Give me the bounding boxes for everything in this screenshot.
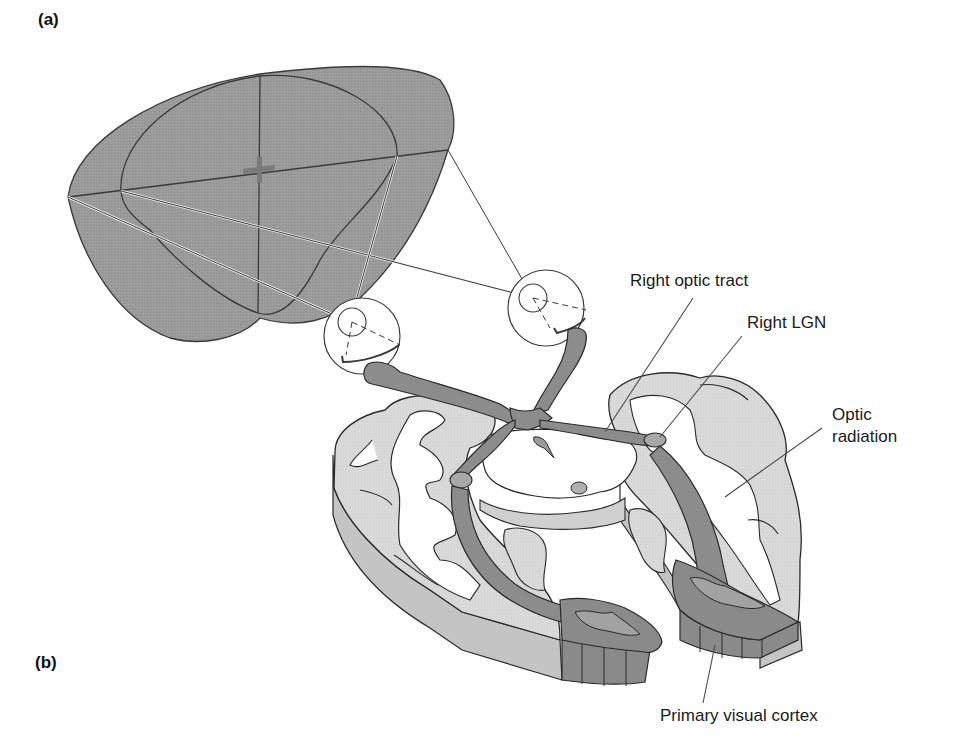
label-optic-radiation-line1: Optic: [832, 404, 872, 425]
brain-section: [333, 328, 802, 686]
label-right-lgn: Right LGN: [747, 312, 826, 333]
panel-label-b: (b): [35, 653, 57, 673]
visual-pathway-figure: (a) (b) Right optic tract Right LGN Opti…: [0, 0, 964, 748]
right-lgn: [644, 433, 666, 447]
binocular-visual-field: [68, 66, 454, 341]
left-lgn: [450, 472, 472, 488]
leader-primary-visual-cortex: [703, 645, 715, 703]
label-right-optic-tract: Right optic tract: [630, 270, 748, 291]
left-eye-icon: [324, 298, 400, 374]
label-optic-radiation-line2: radiation: [832, 426, 897, 447]
figure-canvas: [0, 0, 964, 748]
panel-label-a: (a): [38, 10, 59, 30]
label-primary-visual-cortex: Primary visual cortex: [660, 705, 818, 726]
cerebral-aqueduct: [571, 482, 587, 494]
visual-field: [68, 66, 533, 341]
